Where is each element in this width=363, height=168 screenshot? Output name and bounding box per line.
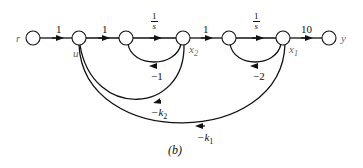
gain-n3-x2: 1 s — [151, 12, 158, 31]
gain-r-u: 1 — [56, 24, 62, 35]
gain-feedback-k1: −k1 — [197, 132, 213, 146]
node-label-y: y — [341, 33, 346, 44]
node-r — [26, 31, 40, 45]
branch-x2-n3-feedback — [128, 44, 181, 62]
node-x2 — [176, 31, 190, 45]
gain-feedback-minus2: −2 — [253, 71, 265, 82]
gain-n5-x1: 1 s — [253, 12, 260, 31]
figure-caption: (b) — [168, 144, 182, 156]
branch-x1-u-feedback-k1 — [79, 44, 285, 123]
node-x1 — [276, 31, 290, 45]
gain-x2-n5: 1 — [203, 24, 209, 35]
gain-feedback-k2: −k2 — [151, 107, 167, 121]
node-label-x1: x1 — [289, 44, 298, 58]
gain-feedback-minus1: −1 — [151, 71, 163, 82]
node-n3 — [119, 31, 133, 45]
node-label-u: u — [73, 48, 79, 59]
node-label-r: r — [16, 33, 20, 44]
node-label-x2: x2 — [189, 44, 198, 58]
node-n5 — [222, 31, 236, 45]
node-u — [72, 31, 86, 45]
gain-u-n3: 1 — [102, 24, 108, 35]
branch-x1-n5-feedback — [230, 44, 281, 62]
node-y — [322, 31, 336, 45]
gain-x1-y: 10 — [301, 24, 312, 35]
